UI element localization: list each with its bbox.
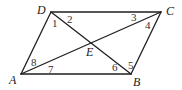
vertex-label-E: E xyxy=(85,45,94,59)
angle-label-7: 7 xyxy=(48,63,54,75)
angle-label-4: 4 xyxy=(145,19,151,31)
vertex-label-A: A xyxy=(8,73,17,87)
vertex-label-C: C xyxy=(166,4,175,18)
vertex-label-B: B xyxy=(133,75,141,89)
parallelogram-diagram: D C A B E 1 2 3 4 5 6 7 8 xyxy=(0,0,182,90)
vertex-labels: D C A B E xyxy=(8,3,175,89)
angle-label-2: 2 xyxy=(67,13,73,25)
diagonal-DB xyxy=(51,12,131,74)
angle-label-1: 1 xyxy=(52,17,58,29)
angle-label-6: 6 xyxy=(112,61,118,73)
vertex-label-D: D xyxy=(36,3,46,17)
angle-label-3: 3 xyxy=(131,11,137,23)
angle-label-5: 5 xyxy=(128,59,134,71)
angle-label-8: 8 xyxy=(31,56,37,68)
diagonals xyxy=(21,12,161,74)
